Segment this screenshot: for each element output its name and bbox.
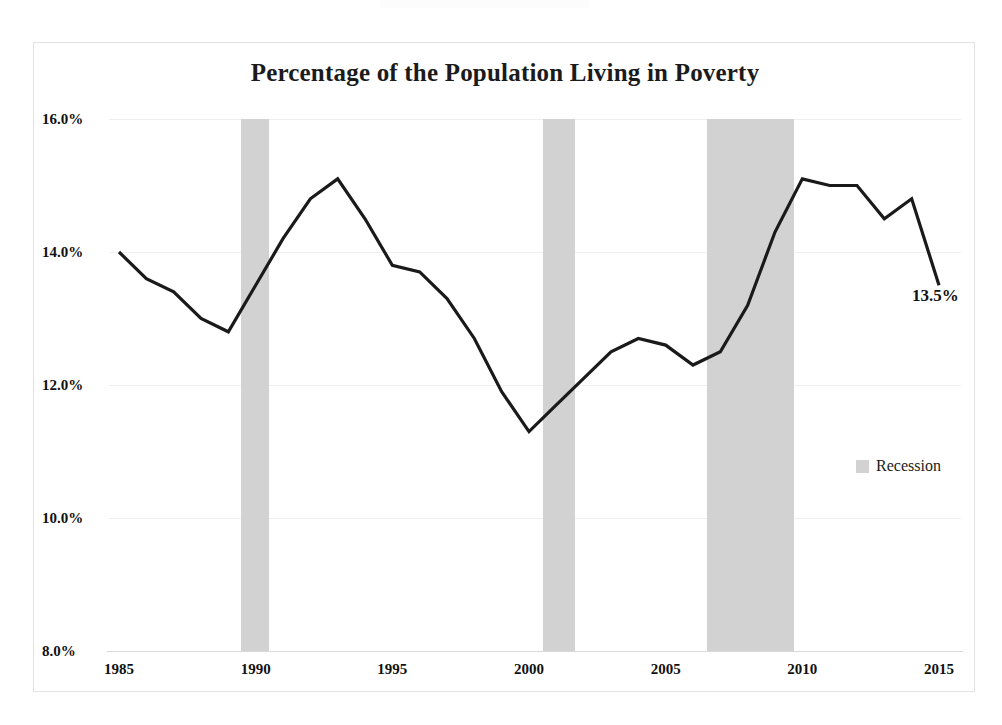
end-value-label: 13.5%: [912, 286, 959, 306]
chart-title: Percentage of the Population Living in P…: [34, 59, 976, 87]
scan-artifact-strip: [380, 0, 590, 8]
x-axis-tick-label: 1985: [79, 661, 159, 678]
x-axis-tick-label: 2000: [489, 661, 569, 678]
x-axis-tick-label: 2010: [762, 661, 842, 678]
x-axis-tick-label: 1995: [352, 661, 432, 678]
plot-area: [119, 119, 939, 651]
x-axis-tick-label: 1990: [216, 661, 296, 678]
recession-legend-label: Recession: [876, 457, 941, 475]
y-axis-labels: 8.0%10.0%12.0%14.0%16.0%: [42, 119, 112, 651]
x-axis-labels: 1985199019952000200520102015: [119, 661, 939, 685]
recession-legend-swatch: [856, 460, 869, 473]
legend: Recession: [856, 457, 941, 475]
y-axis-tick-label: 8.0%: [42, 643, 112, 660]
poverty-rate-line-series: [119, 119, 939, 651]
x-axis-tick-label: 2015: [899, 661, 979, 678]
y-axis-tick-label: 10.0%: [42, 510, 112, 527]
y-axis-tick-label: 14.0%: [42, 244, 112, 261]
gridline-8.0: [107, 651, 963, 652]
y-axis-tick-label: 12.0%: [42, 377, 112, 394]
x-axis-tick-label: 2005: [626, 661, 706, 678]
chart-frame: Percentage of the Population Living in P…: [33, 42, 975, 692]
y-axis-tick-label: 16.0%: [42, 111, 112, 128]
